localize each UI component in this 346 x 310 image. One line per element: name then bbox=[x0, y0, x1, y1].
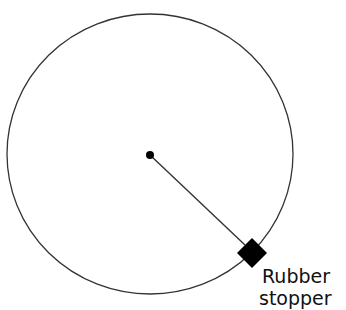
stopper-label-line1: Rubber bbox=[262, 265, 330, 287]
stopper-label-line2: stopper bbox=[259, 287, 332, 309]
string-line bbox=[150, 155, 245, 245]
diagram-canvas: Rubber stopper bbox=[0, 0, 346, 310]
center-pivot-dot bbox=[146, 151, 154, 159]
diagram-svg bbox=[0, 0, 346, 310]
